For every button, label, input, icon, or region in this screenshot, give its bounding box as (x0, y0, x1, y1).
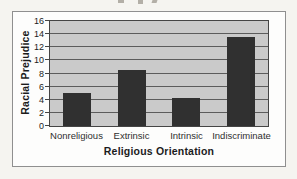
gridline (50, 33, 268, 34)
y-tick-label: 10 (34, 56, 44, 65)
x-category-label: Indiscriminate (212, 130, 271, 142)
y-tick-label: 0 (39, 122, 44, 131)
y-tick-mark (45, 112, 49, 113)
x-axis-title: Religious Orientation (49, 145, 269, 157)
cropped-text-fragment (138, 0, 143, 4)
y-tick-mark (45, 33, 49, 34)
x-axis-category-labels: NonreligiousExtrinsicIntrinsicIndiscrimi… (49, 130, 269, 143)
cropped-text-fragment (152, 0, 158, 3)
y-tick-label: 6 (39, 82, 44, 91)
y-tick-label: 12 (34, 43, 44, 52)
plot-area (49, 20, 269, 127)
x-category-label: Intrinsic (170, 130, 203, 142)
y-tick-mark (45, 20, 49, 21)
y-tick-mark (45, 99, 49, 100)
bar-indiscriminate (227, 37, 255, 126)
y-tick-mark (45, 86, 49, 87)
bar-extrinsic (118, 70, 146, 126)
y-tick-mark (45, 125, 49, 126)
y-tick-label: 2 (39, 108, 44, 117)
scanned-figure-page: Racial Prejudice 0246810121416 Nonreligi… (0, 0, 297, 179)
cropped-text-fragment (118, 0, 124, 3)
y-tick-label: 16 (34, 17, 44, 26)
y-tick-label: 14 (34, 30, 44, 39)
x-category-label: Nonreligious (50, 130, 103, 142)
bar-intrinsic (172, 98, 200, 126)
y-tick-mark (45, 73, 49, 74)
y-tick-mark (45, 59, 49, 60)
y-tick-mark (45, 46, 49, 47)
x-category-label: Extrinsic (114, 130, 150, 142)
y-tick-label: 4 (39, 95, 44, 104)
y-tick-label: 8 (39, 69, 44, 78)
chart-container: Racial Prejudice 0246810121416 Nonreligi… (12, 11, 286, 167)
bar-nonreligious (63, 93, 91, 126)
y-axis-tick-labels: 0246810121416 (13, 20, 44, 127)
